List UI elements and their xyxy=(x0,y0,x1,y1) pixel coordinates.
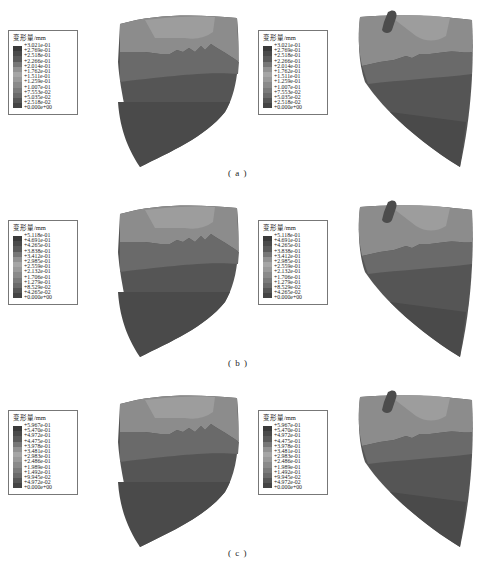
legend-swatch xyxy=(263,483,272,488)
legend-title: 变形量/mm xyxy=(263,414,323,422)
color-legend: 变形量/mm +3.021e-01+2.769e-01+2.518e-01+2.… xyxy=(8,30,78,115)
color-legend: 变形量/mm +5.967e-01+5.470e-01+4.972e-01+4.… xyxy=(8,410,78,495)
deformed-plate-shape xyxy=(115,2,245,177)
color-legend: 变形量/mm +3.021e-01+2.769e-01+2.518e-01+2.… xyxy=(258,30,328,115)
legend-value: +0.000e+00 xyxy=(24,105,52,110)
subfigure-caption: ( c ) xyxy=(228,548,248,558)
legend-swatch xyxy=(263,293,272,298)
legend-title: 变形量/mm xyxy=(263,224,323,232)
contour-plot-left xyxy=(115,2,245,181)
contour-plot-right xyxy=(350,382,480,561)
contour-plot-left xyxy=(115,382,245,561)
deformed-plate-shape xyxy=(350,2,480,177)
legend-value: +0.000e+00 xyxy=(24,295,52,300)
deformed-plate-shape xyxy=(115,192,245,367)
contour-plot-left xyxy=(115,192,245,371)
deformed-plate-shape xyxy=(350,382,480,557)
legend-swatch xyxy=(13,483,22,488)
color-legend: 变形量/mm +5.118e-01+4.691e-01+4.265e-01+3.… xyxy=(8,220,78,305)
legend-title: 变形量/mm xyxy=(13,414,73,422)
legend-swatch xyxy=(13,293,22,298)
legend-title: 变形量/mm xyxy=(263,34,323,42)
legend-swatch xyxy=(263,103,272,108)
contour-plot-right xyxy=(350,2,480,181)
deformed-plate-shape xyxy=(115,382,245,557)
legend-value: +0.000e+00 xyxy=(24,485,52,490)
color-legend: 变形量/mm +5.967e-01+5.470e-01+4.972e-01+4.… xyxy=(258,410,328,495)
legend-title: 变形量/mm xyxy=(13,224,73,232)
contour-plot-right xyxy=(350,192,480,371)
subfigure-caption: ( a ) xyxy=(228,168,248,178)
subfigure-caption: ( b ) xyxy=(228,358,248,368)
deformed-plate-shape xyxy=(350,192,480,367)
legend-value: +0.000e+00 xyxy=(274,105,302,110)
legend-title: 变形量/mm xyxy=(13,34,73,42)
legend-value: +0.000e+00 xyxy=(274,295,302,300)
color-legend: 变形量/mm +5.118e-01+4.691e-01+4.265e-01+3.… xyxy=(258,220,328,305)
legend-swatch xyxy=(13,103,22,108)
legend-value: +0.000e+00 xyxy=(274,485,302,490)
